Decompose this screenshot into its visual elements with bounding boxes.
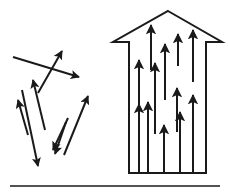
figure-root xyxy=(0,0,228,193)
diagram-canvas xyxy=(0,0,228,193)
